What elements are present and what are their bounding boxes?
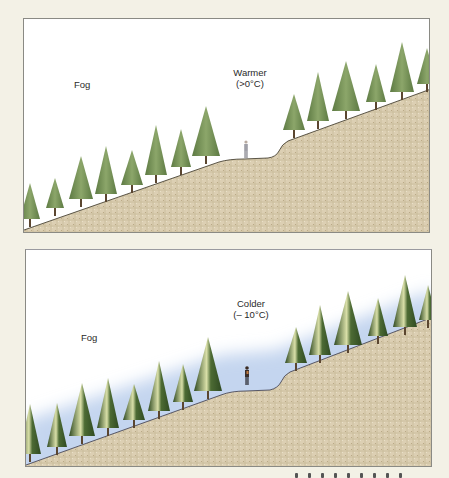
temperature-label: Colder (– 10°C) — [226, 298, 276, 320]
fog-label: Fog — [81, 332, 97, 343]
temperature-label-value: (>0°C) — [227, 78, 273, 89]
temperature-label-title: Colder — [226, 298, 276, 309]
temperature-label: Warmer (>0°C) — [227, 67, 273, 89]
temperature-label-value: (– 10°C) — [226, 309, 276, 320]
hiker-figure — [244, 140, 248, 158]
colder-scene-illustration — [26, 250, 432, 467]
fog-label: Fog — [74, 79, 90, 90]
hillside-ground — [24, 89, 430, 233]
colder-panel: Fog Colder (– 10°C) — [25, 249, 432, 467]
warmer-panel: Fog Warmer (>0°C) — [23, 18, 430, 233]
temperature-label-title: Warmer — [227, 67, 273, 78]
clipped-caption-fragment — [295, 473, 402, 478]
warmer-scene-illustration — [24, 19, 430, 233]
